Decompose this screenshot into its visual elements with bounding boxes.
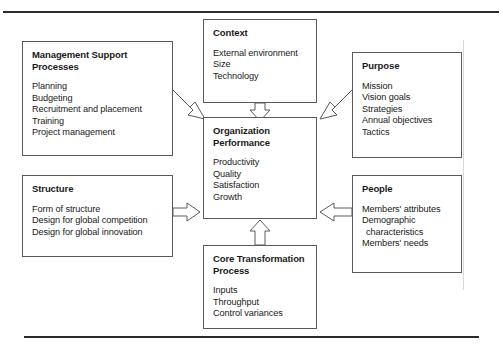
list-item: Members' attributes	[362, 204, 453, 216]
box-items: Mission Vision goals Strategies Annual o…	[362, 81, 453, 139]
box-items: External environment Size Technology	[213, 48, 308, 83]
box-title: Structure	[32, 183, 164, 195]
list-item: Technology	[213, 71, 308, 83]
box-items: Members' attributes Demographic characte…	[362, 204, 453, 250]
list-item: characteristics	[362, 227, 453, 239]
arrow-people-to-center	[320, 203, 352, 221]
list-item: Demographic	[362, 215, 453, 227]
arrow-purpose-to-center	[320, 90, 352, 119]
box-title: Core Transformation Process	[213, 253, 308, 276]
list-item: Budgeting	[32, 93, 164, 105]
list-item: Satisfaction	[213, 180, 308, 192]
list-item: Inputs	[213, 285, 308, 297]
list-item: Recruitment and placement	[32, 104, 164, 116]
list-item: Size	[213, 59, 308, 71]
box-people: People Members' attributes Demographic c…	[352, 175, 462, 273]
list-item: Design for global innovation	[32, 227, 164, 239]
box-management-support-processes: Management Support Processes Planning Bu…	[22, 41, 173, 156]
box-items: Inputs Throughput Control variances	[213, 285, 308, 320]
box-purpose: Purpose Mission Vision goals Strategies …	[352, 52, 462, 158]
box-core-transformation-process: Core Transformation Process Inputs Throu…	[203, 245, 317, 329]
list-item: Growth	[213, 192, 308, 204]
box-organization-performance: Organization Performance Productivity Qu…	[203, 117, 317, 219]
list-item: Quality	[213, 169, 308, 181]
list-item: Form of structure	[32, 204, 164, 216]
box-context: Context External environment Size Techno…	[203, 19, 317, 103]
list-item: Throughput	[213, 297, 308, 309]
organization-performance-diagram: Management Support Processes Planning Bu…	[0, 0, 503, 353]
list-item: Vision goals	[362, 92, 453, 104]
box-title: Purpose	[362, 60, 453, 72]
box-items: Planning Budgeting Recruitment and place…	[32, 81, 164, 139]
arrow-core-to-center	[250, 220, 270, 245]
box-items: Form of structure Design for global comp…	[32, 204, 164, 239]
box-structure: Structure Form of structure Design for g…	[22, 175, 173, 257]
box-title: Organization Performance	[213, 125, 308, 148]
list-item: Planning	[32, 81, 164, 93]
list-item: Mission	[362, 81, 453, 93]
box-title: Management Support Processes	[32, 49, 164, 72]
arrow-structure-to-center	[173, 203, 200, 221]
list-item: Control variances	[213, 308, 308, 320]
list-item: Strategies	[362, 104, 453, 116]
list-item: External environment	[213, 48, 308, 60]
list-item: Members' needs	[362, 238, 453, 250]
arrow-management-to-center	[173, 90, 205, 119]
list-item: Design for global competition	[32, 215, 164, 227]
box-title: Context	[213, 27, 308, 39]
list-item: Tactics	[362, 127, 453, 139]
list-item: Project management	[32, 127, 164, 139]
list-item: Annual objectives	[362, 115, 453, 127]
list-item: Productivity	[213, 157, 308, 169]
box-items: Productivity Quality Satisfaction Growth	[213, 157, 308, 203]
box-title: People	[362, 183, 453, 195]
list-item: Training	[32, 116, 164, 128]
